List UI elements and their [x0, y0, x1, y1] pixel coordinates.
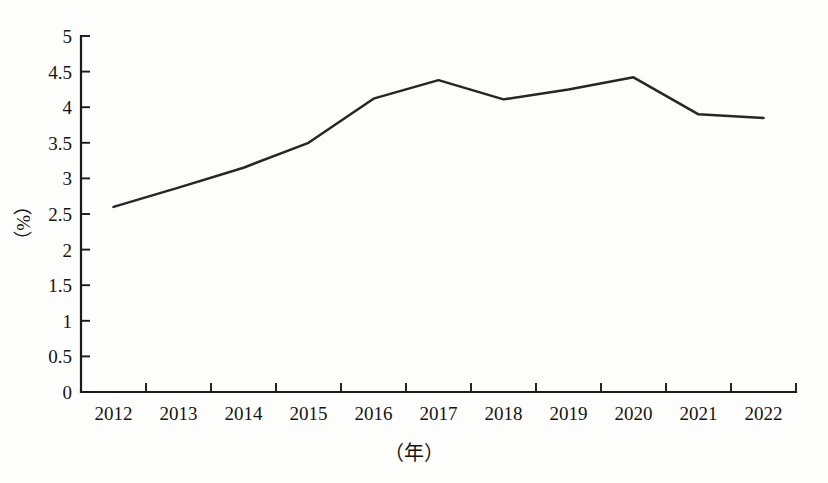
y-tick-label: 4: [0, 98, 72, 117]
x-tick-label: 2017: [420, 404, 458, 423]
y-tick-label: 4.5: [0, 62, 72, 81]
y-axis-title: （%）: [10, 196, 48, 250]
y-tick-label: 0.5: [0, 347, 72, 366]
x-tick-label: 2015: [290, 404, 328, 423]
x-tick-label: 2013: [160, 404, 198, 423]
y-tick-label: 3.5: [0, 133, 72, 152]
y-tick-label: 3: [0, 169, 72, 188]
data-line-series-1: [114, 77, 764, 207]
x-axis-ticks: [81, 383, 796, 392]
y-tick-label: 1.5: [0, 276, 72, 295]
x-tick-label: 2016: [355, 404, 393, 423]
line-chart: 00.511.522.533.544.55 201220132014201520…: [0, 0, 828, 483]
y-tick-label: 5: [0, 27, 72, 46]
x-tick-label: 2018: [485, 404, 523, 423]
x-tick-label: 2020: [615, 404, 653, 423]
y-tick-label: 0: [0, 383, 72, 402]
x-tick-label: 2021: [680, 404, 718, 423]
x-axis-title: （年）: [0, 437, 828, 466]
axes-group: [81, 36, 796, 392]
x-tick-label: 2022: [745, 404, 783, 423]
data-series-group: [114, 77, 764, 207]
x-tick-label: 2019: [550, 404, 588, 423]
x-tick-label: 2012: [95, 404, 133, 423]
y-tick-label: 1: [0, 311, 72, 330]
x-tick-label: 2014: [225, 404, 263, 423]
y-axis-ticks: [81, 36, 90, 392]
